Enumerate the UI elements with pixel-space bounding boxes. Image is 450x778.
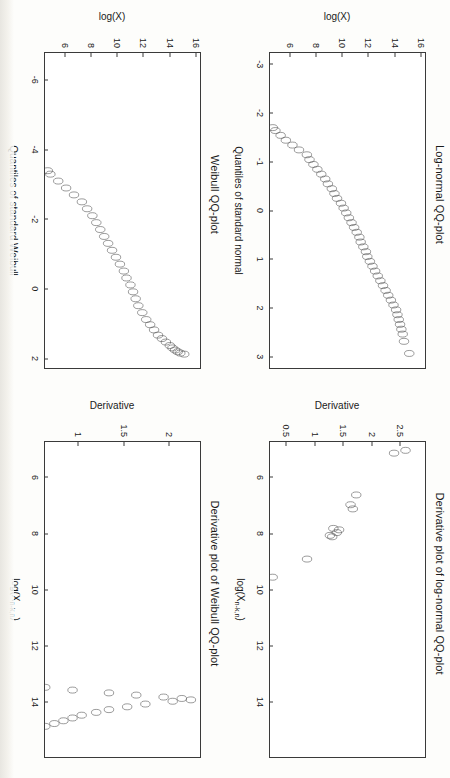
x-axis: 68101214 [30, 441, 44, 758]
x-tick-label: 0 [255, 208, 265, 213]
y-tick-label: 8 [86, 43, 96, 48]
x-tick-label: 10 [30, 585, 40, 595]
y-axis-label: log(X) [278, 11, 398, 22]
x-tick-label: 6 [255, 475, 265, 480]
scatter-points [269, 53, 425, 368]
y-tick-label: 2 [367, 432, 377, 437]
x-tick-label: 12 [30, 641, 40, 651]
y-axis: 6810121416 [44, 34, 201, 52]
y-tick-label: 1 [310, 432, 320, 437]
y-tick-label: 10 [337, 38, 347, 48]
x-axis-label: log(Xn-k,n) [233, 441, 246, 758]
y-tick-label: 0.5 [281, 424, 291, 437]
x-tick-label: 2 [255, 306, 265, 311]
y-tick-label: 12 [363, 38, 373, 48]
x-axis-label-main: log(X [235, 578, 246, 601]
y-tick-label: 1.5 [338, 424, 348, 437]
x-tick-label: 14 [255, 697, 265, 707]
x-axis: 68101214 [255, 441, 269, 758]
x-tick-label: 8 [255, 531, 265, 536]
plot-title: Derivative plot of log-normal QQ-plot [434, 389, 446, 778]
panel-lognormal-qq: Log-normal QQ-plot 6810121416 -3-2-10123… [225, 0, 450, 389]
x-tick-label: -3 [255, 60, 265, 68]
x-tick-label: -1 [255, 158, 265, 166]
y-tick-label: 14 [390, 38, 400, 48]
x-tick-label: 2 [30, 356, 40, 361]
scatter-points [44, 442, 200, 757]
x-axis-label: Quantiles of standard normal [233, 52, 244, 369]
y-tick-label: 10 [112, 38, 122, 48]
plot-area [269, 441, 426, 758]
y-tick-label: 2.5 [395, 424, 405, 437]
x-tick-label: 12 [255, 641, 265, 651]
plot-title: Derivative plot of Weibull QQ-plot [209, 389, 221, 778]
x-tick-label: 1 [255, 257, 265, 262]
x-tick-label: 3 [255, 354, 265, 359]
x-tick-label: 14 [30, 697, 40, 707]
scatter-points [269, 442, 425, 757]
y-tick-label: 16 [416, 38, 426, 48]
plot-area [269, 52, 426, 369]
x-tick-label: 8 [30, 531, 40, 536]
x-tick-label: 0 [30, 286, 40, 291]
scanned-page: Log-normal QQ-plot 6810121416 -3-2-10123… [0, 0, 450, 778]
plot-title: Log-normal QQ-plot [434, 0, 446, 389]
y-tick-label: 2 [164, 432, 174, 437]
y-axis-label: Derivative [53, 400, 173, 411]
x-axis: -6-4-202 [30, 52, 44, 369]
scatter-points [44, 53, 200, 368]
x-tick-label: -2 [255, 109, 265, 117]
qq-plot-figure: Log-normal QQ-plot 6810121416 -3-2-10123… [0, 0, 450, 778]
panel-lognormal-derivative: Derivative plot of log-normal QQ-plot 0.… [225, 389, 450, 778]
y-tick-label: 1.5 [119, 424, 129, 437]
plot-area [44, 52, 201, 369]
y-tick-label: 14 [165, 38, 175, 48]
x-tick-label: -4 [30, 146, 40, 154]
y-axis-label: Derivative [278, 400, 398, 411]
y-axis: 6810121416 [269, 34, 426, 52]
x-tick-label: 6 [30, 475, 40, 480]
x-tick-label: -6 [30, 76, 40, 84]
panel-weibull-qq: Weibull QQ-plot 6810121416 -6-4-202 Quan… [0, 0, 225, 389]
y-tick-label: 6 [285, 43, 295, 48]
plot-title: Weibull QQ-plot [209, 0, 221, 389]
x-tick-label: 10 [255, 585, 265, 595]
y-tick-label: 12 [138, 38, 148, 48]
y-tick-label: 6 [60, 43, 70, 48]
x-axis-label-close: ) [235, 618, 246, 621]
plot-area [44, 441, 201, 758]
x-tick-label: -2 [30, 215, 40, 223]
y-axis-label: log(X) [53, 11, 173, 22]
y-axis: 0.511.522.5 [269, 423, 426, 441]
page-edge-shadow [0, 0, 14, 778]
y-tick-label: 8 [311, 43, 321, 48]
y-axis: 11.52 [44, 423, 201, 441]
x-axis: -3-2-10123 [255, 52, 269, 369]
panel-weibull-derivative: Derivative plot of Weibull QQ-plot 11.52… [0, 389, 225, 778]
y-tick-label: 16 [191, 38, 201, 48]
x-axis-label-subscript: n-k,n [233, 602, 242, 618]
y-tick-label: 1 [74, 432, 84, 437]
